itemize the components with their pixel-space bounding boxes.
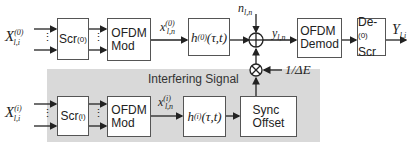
ofdm-diagram: Interfering Signal [0,0,419,148]
input-symbol-0: X(0)l,i [5,28,20,47]
scrambler-i-block: Scr(i) [57,96,89,136]
gain-label: 1/ΔE [285,62,311,78]
noise-symbol: nl,n [238,1,252,17]
ellipsis-mid-i: ⋮ [93,107,104,120]
ofdm-demod-block: OFDMDemod [297,18,342,58]
ofdm-mod-0-block: OFDMMod [107,18,151,61]
input-symbol-i: X(i)l,i [5,104,20,123]
ellipsis-in-i: ⋮ [42,107,53,120]
ofdm-mod-i-block: OFDMMod [107,96,151,137]
mod-output-i-symbol: x(i)l,n [158,94,173,111]
output-symbol: Yl,i [392,22,406,40]
mod-output-0-symbol: x(0)l,n [160,19,175,36]
scrambler-0-block: Scr(0) [57,18,89,60]
channel-0-block: h(0)(τ,t) [188,18,230,56]
channel-i-block: h(i)(τ,t) [183,96,226,137]
received-symbol: yl,n [272,26,286,42]
sync-offset-block: SyncOffset [240,96,297,137]
descrambler-block: De-(0)Scr [357,18,386,56]
ellipsis-in-0: ⋮ [42,31,53,44]
ellipsis-mid-0: ⋮ [93,31,104,44]
